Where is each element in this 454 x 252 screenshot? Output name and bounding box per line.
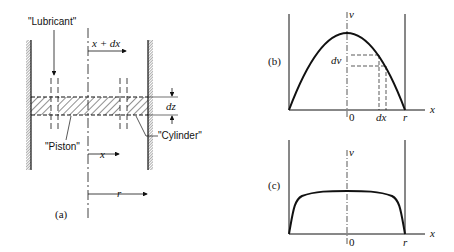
dv-label: dv xyxy=(331,54,342,66)
panel-a: "Lubricant" x + dx dz "Piston" "Cylinder… xyxy=(26,16,202,221)
x-label: x xyxy=(99,148,105,160)
panel-c-r-label: r xyxy=(403,236,408,248)
right-wall xyxy=(148,40,153,170)
panel-c-v-label: v xyxy=(349,146,354,158)
panel-c-caption: (c) xyxy=(268,179,281,192)
panel-b-origin: 0 xyxy=(349,111,355,123)
piston-label: "Piston" xyxy=(45,141,80,152)
panel-c-x-label: x xyxy=(429,227,435,239)
panel-c-origin: 0 xyxy=(349,236,355,248)
piston-leader xyxy=(66,116,71,140)
piston-band xyxy=(31,97,148,115)
panel-b-caption: (b) xyxy=(268,55,281,68)
panel-a-caption: (a) xyxy=(55,208,68,221)
panel-b-dv-dx-guides xyxy=(351,55,386,110)
figure-svg: "Lubricant" x + dx dz "Piston" "Cylinder… xyxy=(0,0,454,252)
panel-b-v-label: v xyxy=(349,8,354,20)
figure: "Lubricant" x + dx dz "Piston" "Cylinder… xyxy=(0,0,454,252)
panel-b-x-label: x xyxy=(429,103,435,115)
dz-label: dz xyxy=(166,100,177,112)
dx-label: dx xyxy=(376,111,387,123)
cylinder-label: "Cylinder" xyxy=(158,130,202,141)
panel-b-r-label: r xyxy=(403,111,408,123)
cylinder-leader xyxy=(136,116,158,136)
lubricant-label: "Lubricant" xyxy=(28,16,77,27)
panel-c: v x 0 r (c) xyxy=(268,140,435,248)
panel-b: dv dx v x 0 r (b) xyxy=(268,8,435,123)
left-wall xyxy=(26,40,31,170)
r-label: r xyxy=(117,187,122,199)
x-plus-dx-label: x + dx xyxy=(91,37,120,49)
